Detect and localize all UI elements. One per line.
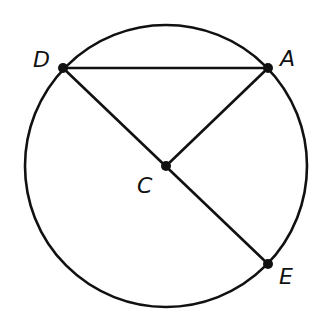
point-label-A: A: [278, 46, 295, 71]
segment-radius-CA: [166, 68, 268, 166]
geometry-diagram: DACE: [0, 0, 326, 318]
point-E: [263, 259, 273, 269]
point-label-C: C: [137, 173, 153, 198]
point-label-D: D: [33, 47, 50, 72]
point-C: [161, 161, 171, 171]
point-A: [263, 63, 273, 73]
point-D: [58, 63, 68, 73]
point-label-E: E: [279, 264, 293, 289]
